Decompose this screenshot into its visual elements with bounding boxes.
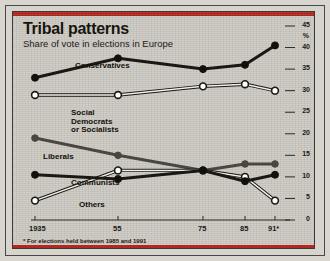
chart-plate: Tribal patterns Share of vote in electio… — [12, 11, 315, 249]
series-label-communists: Communists — [71, 179, 119, 188]
x-tick-label: 75 — [198, 224, 206, 233]
y-tick-label: 45 — [296, 21, 310, 28]
y-tick-label: 35 — [296, 64, 310, 71]
y-tick-label: 40 — [296, 43, 310, 50]
chart-clipping: Tribal patterns Share of vote in electio… — [0, 0, 330, 261]
x-tick-label: 85 — [240, 224, 248, 233]
y-axis-unit: % — [295, 32, 309, 39]
y-tick-label: 25 — [296, 107, 310, 114]
x-tick-label: 1935 — [29, 224, 46, 233]
series-label-liberals: Liberals — [43, 153, 74, 162]
series-label-conservatives: Conservatives — [75, 62, 130, 71]
y-tick-label: 30 — [296, 86, 310, 93]
bottom-accent-rule — [13, 245, 314, 248]
x-tick-label: 91* — [268, 224, 279, 233]
series-group — [32, 42, 279, 204]
series-label-others: Others — [79, 201, 105, 210]
line-chart-svg — [13, 12, 316, 250]
y-tick-label: 5 — [296, 193, 310, 200]
y-tick-label: 15 — [296, 150, 310, 157]
series-label-social-democrats: Social Democrats or Socialists — [71, 109, 119, 135]
x-tick-label: 55 — [113, 224, 121, 233]
social-label-line3: or Socialists — [71, 125, 119, 134]
y-tick-label: 20 — [296, 129, 310, 136]
y-tick-label: 0 — [296, 215, 310, 222]
y-tick-label: 10 — [296, 172, 310, 179]
plot-area — [13, 12, 316, 250]
chart-footnote: * For elections held between 1985 and 19… — [23, 238, 146, 244]
